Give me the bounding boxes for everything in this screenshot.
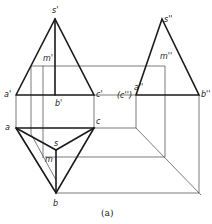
label-a-prime: a' (4, 90, 11, 99)
figure-caption: (a) (101, 208, 113, 218)
label-s: s (54, 139, 58, 148)
label-c-double-prime: (c'') (117, 91, 132, 100)
label-c-prime: c' (96, 90, 103, 99)
projection-diagram: s' m' a' b' c' a c s m b s'' m'' a'' (c'… (0, 0, 212, 224)
label-b-double-prime: b'' (201, 90, 210, 99)
label-m-double-prime: m'' (160, 52, 172, 61)
label-a-double-prime: a'' (134, 83, 143, 92)
label-s-prime: s' (52, 6, 58, 15)
label-m-prime: m' (43, 54, 53, 63)
label-a: a (5, 123, 10, 132)
front-view (16, 19, 94, 95)
label-s-double-prime: s'' (164, 15, 173, 24)
label-c: c (96, 117, 101, 126)
top-view (16, 128, 94, 193)
label-m: m (45, 155, 53, 164)
label-b: b (53, 199, 58, 208)
construction-lines (16, 66, 201, 195)
label-b-prime: b' (55, 99, 62, 108)
